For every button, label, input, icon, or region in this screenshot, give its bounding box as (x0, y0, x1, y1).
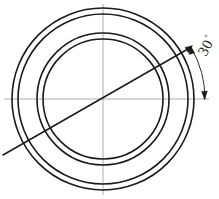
angle-value-label: 30 (195, 37, 216, 58)
technical-drawing-canvas: 30 ° (0, 0, 219, 199)
drawing-svg: 30 ° (0, 0, 219, 199)
angle-label-group: 30 ° (195, 33, 219, 58)
angled-reference-line-group (3, 46, 193, 155)
angle-arc-lower-arrowhead-icon (202, 91, 208, 100)
